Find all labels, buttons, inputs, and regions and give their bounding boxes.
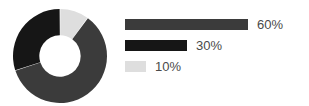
donut-slices (13, 9, 107, 103)
legend-label-60: 60% (257, 18, 283, 31)
legend-label-10: 10% (155, 60, 181, 73)
legend-item-10[interactable]: 10% (125, 61, 305, 72)
donut-chart-figure: 60% 30% 10% (0, 0, 309, 106)
legend-item-60[interactable]: 60% (125, 19, 305, 30)
donut-slice-30 (13, 9, 60, 70)
legend-bar-30 (125, 40, 187, 51)
legend-label-30: 30% (196, 39, 222, 52)
legend: 60% 30% 10% (125, 19, 305, 91)
donut-chart (13, 9, 107, 103)
legend-bar-10 (125, 61, 146, 72)
legend-bar-60 (125, 19, 248, 30)
legend-item-30[interactable]: 30% (125, 40, 305, 51)
